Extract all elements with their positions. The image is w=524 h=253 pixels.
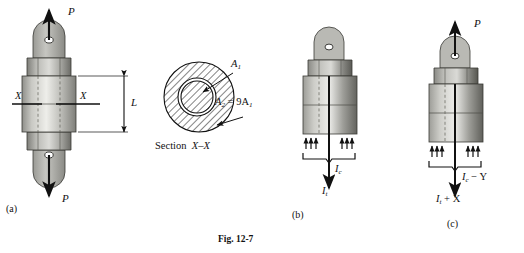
force-label-bottom-a: P — [62, 193, 69, 204]
compression-force-label-c: Ic − Y — [462, 172, 487, 184]
compression-force-label-b: Ic — [335, 164, 342, 176]
panel-a-drawing — [0, 0, 150, 235]
length-dimension-label: L — [131, 97, 137, 108]
panel-c: P Ic − Y It + X (c) — [412, 8, 524, 236]
panel-b-drawing — [292, 22, 407, 232]
force-label-top-c: P — [474, 18, 481, 29]
section-view-title: Section X–X — [155, 141, 210, 152]
outer-area-relation-label: A2 = 9A1 — [215, 97, 253, 109]
inner-area-label: A1 — [231, 59, 241, 71]
force-label-top-a: P — [68, 6, 75, 17]
figure-caption: Fig. 12-7 — [218, 234, 253, 244]
panel-c-drawing — [412, 8, 524, 236]
panel-label-c: (c) — [447, 218, 458, 229]
tension-force-label-c: It + X — [436, 194, 460, 206]
section-view: A1 A2 = 9A1 Section X–X — [155, 55, 290, 160]
tension-force-label-b: It — [322, 186, 327, 198]
panel-label-b: (b) — [292, 209, 304, 220]
section-label-left: X — [15, 91, 21, 102]
section-label-right: X — [80, 91, 86, 102]
panel-a: P P X X L (a) — [0, 0, 150, 235]
panel-label-a: (a) — [6, 203, 17, 214]
panel-b: Ic It (b) — [292, 22, 407, 232]
